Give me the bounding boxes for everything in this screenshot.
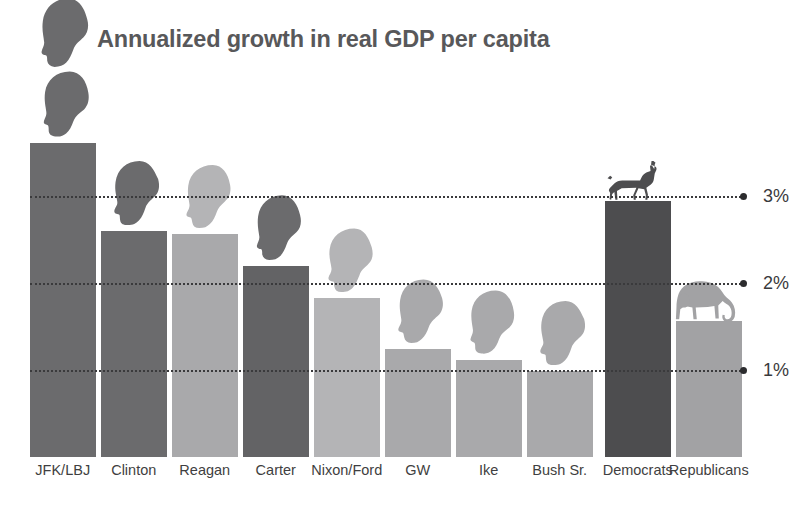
bar-democrats: [605, 201, 671, 457]
bar-republicans: [676, 321, 742, 457]
elephant-icon: [674, 279, 746, 323]
plot-area: JFK/LBJClintonReaganCarterNixon/FordGWIk…: [0, 0, 801, 512]
bar-gw: [385, 349, 451, 457]
bar-bush-sr: [527, 371, 593, 457]
bar-carter: [243, 266, 309, 457]
johnson-head-silhouette: [36, 0, 96, 70]
bush-jr-head-silhouette: [394, 276, 450, 346]
tick-dot-1%: [740, 367, 747, 374]
kennedy-head-silhouette: [38, 68, 96, 140]
gdp-growth-bar-chart: Annualized growth in real GDP per capita…: [0, 0, 801, 512]
bar-clinton: [101, 231, 167, 457]
bush-sr-head-silhouette: [536, 298, 592, 368]
x-axis-label: Republicans: [664, 462, 754, 478]
y-axis-tick-label: 3%: [763, 186, 789, 207]
y-axis-tick-label: 2%: [763, 273, 789, 294]
bar-reagan: [172, 234, 238, 457]
clinton-head-silhouette: [110, 158, 166, 228]
y-axis-tick-label: 1%: [763, 360, 789, 381]
bar-nixon-ford: [314, 298, 380, 457]
tick-dot-3%: [740, 193, 747, 200]
gridline-1%: [30, 370, 741, 372]
gridline-2%: [30, 283, 741, 285]
bar-jfk-lbj: [30, 143, 96, 457]
tick-dot-2%: [740, 280, 747, 287]
gridline-3%: [30, 196, 741, 198]
bar-ike: [456, 360, 522, 457]
x-axis-label: Bush Sr.: [515, 462, 605, 478]
carter-head-silhouette: [252, 193, 308, 263]
eisenhower-head-silhouette: [465, 287, 521, 357]
